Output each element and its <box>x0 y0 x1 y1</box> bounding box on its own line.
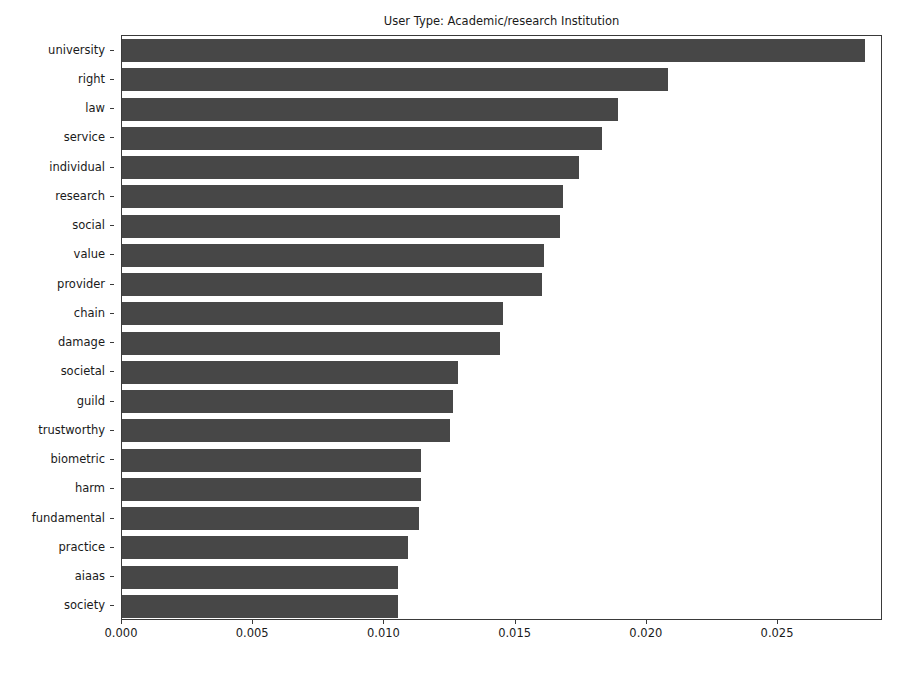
y-tick-label: value <box>74 248 105 261</box>
bar <box>122 98 618 121</box>
bar <box>122 566 398 589</box>
y-tick-mark <box>110 547 114 548</box>
y-tick-mark <box>110 430 114 431</box>
bar <box>122 39 865 62</box>
y-tick-mark <box>110 401 114 402</box>
x-tick-mark <box>383 620 384 624</box>
y-tick-mark <box>110 50 114 51</box>
y-tick-label: guild <box>77 394 105 407</box>
x-axis: 0.0000.0050.0100.0150.0200.025 <box>121 620 882 660</box>
bar <box>122 156 579 179</box>
bar <box>122 273 542 296</box>
y-tick-mark <box>110 313 114 314</box>
x-tick-mark <box>515 620 516 624</box>
x-tick-label: 0.010 <box>367 627 400 640</box>
y-tick-label: right <box>78 72 105 85</box>
bar <box>122 302 503 325</box>
y-tick-mark <box>110 488 114 489</box>
y-tick-label: biometric <box>50 453 105 466</box>
x-tick-mark <box>777 620 778 624</box>
bar <box>122 127 602 150</box>
x-tick-label: 0.020 <box>629 627 662 640</box>
bar <box>122 419 450 442</box>
bar <box>122 68 668 91</box>
x-tick-mark <box>646 620 647 624</box>
y-tick-mark <box>110 108 114 109</box>
y-tick-mark <box>110 254 114 255</box>
bar <box>122 449 421 472</box>
y-tick-label: societal <box>61 365 105 378</box>
bar <box>122 507 419 530</box>
y-tick-mark <box>110 459 114 460</box>
y-tick-mark <box>110 371 114 372</box>
y-tick-label: individual <box>49 160 105 173</box>
bar <box>122 478 421 501</box>
bar <box>122 390 453 413</box>
x-tick-label: 0.000 <box>105 627 138 640</box>
bar-series <box>122 36 881 619</box>
y-tick-label: practice <box>59 540 106 553</box>
bar <box>122 215 560 238</box>
y-tick-label: aiaas <box>75 570 105 583</box>
bar <box>122 185 563 208</box>
x-tick-mark <box>252 620 253 624</box>
y-tick-mark <box>110 167 114 168</box>
y-tick-mark <box>110 518 114 519</box>
chart-figure: User Type: Academic/research Institution… <box>0 0 908 675</box>
bar <box>122 595 398 618</box>
y-tick-mark <box>110 225 114 226</box>
y-tick-mark <box>110 342 114 343</box>
bar <box>122 536 408 559</box>
y-tick-label: provider <box>57 277 105 290</box>
x-tick-label: 0.025 <box>761 627 794 640</box>
y-tick-mark <box>110 137 114 138</box>
y-tick-label: chain <box>74 306 105 319</box>
y-tick-label: law <box>85 102 105 115</box>
y-tick-mark <box>110 576 114 577</box>
bar <box>122 244 544 267</box>
y-tick-label: trustworthy <box>38 423 105 436</box>
y-tick-label: fundamental <box>32 511 105 524</box>
y-tick-mark <box>110 79 114 80</box>
y-tick-mark <box>110 605 114 606</box>
y-tick-label: society <box>64 599 105 612</box>
bar <box>122 332 500 355</box>
plot-area <box>121 35 882 620</box>
y-tick-label: harm <box>75 482 105 495</box>
y-axis: universityrightlawserviceindividualresea… <box>0 35 114 620</box>
y-tick-label: service <box>64 131 105 144</box>
chart-title: User Type: Academic/research Institution <box>121 14 882 28</box>
y-tick-label: research <box>55 189 105 202</box>
y-tick-label: social <box>72 219 105 232</box>
x-tick-label: 0.005 <box>236 627 269 640</box>
y-tick-label: university <box>48 43 105 56</box>
y-tick-mark <box>110 284 114 285</box>
y-tick-mark <box>110 196 114 197</box>
x-tick-mark <box>121 620 122 624</box>
bar <box>122 361 458 384</box>
x-tick-label: 0.015 <box>498 627 531 640</box>
y-tick-label: damage <box>58 336 105 349</box>
